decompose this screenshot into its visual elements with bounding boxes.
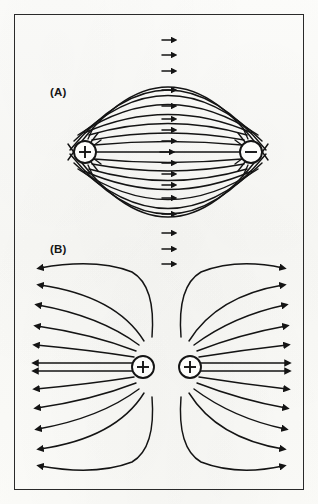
field-line-a-upper-7 <box>70 55 266 150</box>
field-line-a-upper-5 <box>78 90 258 135</box>
positive-charge-b-right <box>179 356 201 378</box>
field-line-b-left-3 <box>36 345 134 357</box>
panel-label-a: (A) <box>50 86 67 98</box>
field-line-a-lower-2 <box>92 164 244 174</box>
field-line-b-right-12 <box>180 397 283 470</box>
field-line-b-right-4 <box>199 377 287 389</box>
field-line-b-right-9 <box>189 285 283 341</box>
field-line-b-left-7 <box>38 305 139 345</box>
field-line-b-right-7 <box>194 305 285 345</box>
field-line-b-right-8 <box>194 389 285 429</box>
field-line-b-right-10 <box>189 393 283 449</box>
field-line-b-left-9 <box>40 285 144 341</box>
panel-label-b: (B) <box>50 243 67 255</box>
field-line-a-upper-1 <box>94 141 242 145</box>
positive-charge-b-left <box>132 356 154 378</box>
panel-a-field-lines <box>68 40 268 264</box>
panel-b-charges <box>132 356 201 378</box>
figure-root: (A) (B) <box>0 0 318 504</box>
field-line-a-lower-7 <box>70 154 266 249</box>
field-line-a-lower-5 <box>78 169 258 214</box>
field-line-b-right-11 <box>180 264 283 337</box>
field-line-a-upper-2 <box>92 130 244 140</box>
field-line-a-lower-1 <box>94 159 242 163</box>
negative-charge-a <box>240 141 262 163</box>
positive-charge-a <box>74 141 96 163</box>
field-line-b-left-8 <box>38 389 139 429</box>
field-line-b-left-10 <box>40 393 144 449</box>
field-line-b-right-3 <box>199 345 287 357</box>
field-lines-canvas <box>0 0 318 504</box>
panel-b-field-lines <box>35 264 288 470</box>
field-line-b-left-4 <box>36 377 134 389</box>
